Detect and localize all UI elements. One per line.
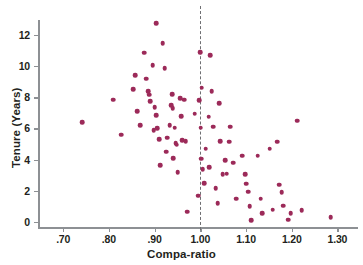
data-point [234, 196, 239, 201]
data-point [152, 105, 157, 110]
data-point [119, 132, 124, 137]
data-point [142, 50, 147, 55]
data-point [228, 125, 233, 130]
data-point [150, 63, 155, 68]
data-point [328, 215, 333, 220]
data-point [277, 182, 282, 187]
data-point [162, 66, 167, 71]
data-point [164, 150, 169, 155]
data-point [260, 211, 265, 216]
data-point [193, 111, 198, 116]
data-point [148, 99, 153, 104]
data-point [199, 157, 204, 162]
data-point [208, 53, 213, 58]
x-tick-label: 1.00 [190, 233, 210, 245]
y-axis-title: Tenure (Years) [10, 88, 22, 168]
data-point [246, 189, 251, 194]
data-point [138, 123, 143, 128]
data-point [197, 98, 202, 103]
data-point [215, 201, 220, 206]
x-tick-label: 1.30 [328, 233, 348, 245]
x-tick-label: .90 [148, 233, 162, 245]
y-axis-line [38, 20, 40, 228]
data-point [247, 204, 252, 209]
data-point [217, 101, 222, 106]
reference-line-1.00 [200, 6, 201, 230]
data-point [171, 156, 176, 161]
data-point [158, 163, 163, 168]
x-tick-mark [155, 228, 156, 232]
data-point [214, 186, 219, 191]
y-tick-label: 10 [10, 60, 30, 72]
data-point [218, 139, 223, 144]
data-point [155, 126, 160, 131]
data-point [131, 87, 136, 92]
data-point [196, 193, 201, 198]
y-tick-mark [34, 222, 38, 223]
data-point [161, 41, 166, 46]
data-point [207, 165, 212, 170]
data-point [203, 146, 208, 151]
data-point [167, 123, 172, 128]
x-tick-label: .70 [56, 233, 70, 245]
data-point [174, 143, 179, 148]
data-point [170, 92, 175, 97]
data-point [133, 73, 138, 78]
scatter-plot: .70.80.901.001.101.201.30 024681012 Comp… [0, 0, 363, 265]
data-point [206, 114, 211, 119]
data-point [270, 207, 275, 212]
data-point [165, 135, 170, 140]
data-point [199, 86, 204, 91]
data-point [200, 167, 205, 172]
y-tick-mark [34, 97, 38, 98]
data-point [147, 93, 152, 98]
data-point [295, 118, 300, 123]
y-tick-label: 2 [10, 185, 30, 197]
data-point [243, 172, 248, 177]
data-point [281, 203, 286, 208]
y-tick-mark [34, 66, 38, 67]
data-point [182, 97, 187, 102]
data-point [231, 160, 236, 165]
x-tick-mark [63, 228, 64, 232]
data-point [154, 113, 159, 118]
data-point [183, 139, 188, 144]
y-tick-label: 12 [10, 29, 30, 41]
data-point [157, 137, 162, 142]
x-tick-mark [292, 228, 293, 232]
data-point [227, 139, 232, 144]
x-axis-title: Compa-ratio [0, 248, 363, 260]
data-point [198, 50, 203, 55]
x-tick-mark [337, 228, 338, 232]
y-tick-mark [34, 160, 38, 161]
y-tick-mark [34, 191, 38, 192]
data-point [249, 218, 254, 223]
data-point [135, 109, 140, 114]
data-point [258, 196, 263, 201]
data-point [244, 182, 249, 187]
data-point [275, 139, 280, 144]
x-tick-mark [246, 228, 247, 232]
x-tick-label: .80 [102, 233, 116, 245]
data-point [299, 208, 304, 213]
data-point [267, 146, 272, 151]
x-tick-label: 1.20 [282, 233, 302, 245]
data-point [185, 210, 190, 215]
y-tick-mark [34, 35, 38, 36]
data-point [240, 153, 245, 158]
data-point [144, 76, 149, 81]
data-point [256, 153, 261, 158]
data-point [225, 171, 230, 176]
data-point [80, 120, 85, 125]
y-tick-mark [34, 128, 38, 129]
data-point [289, 211, 294, 216]
data-point [111, 97, 116, 102]
y-tick-label: 0 [10, 216, 30, 228]
data-point [154, 21, 159, 26]
x-tick-mark [109, 228, 110, 232]
data-point [172, 125, 177, 130]
data-point [223, 158, 228, 163]
data-point [209, 89, 214, 94]
data-point [198, 125, 203, 130]
data-point [179, 114, 184, 119]
